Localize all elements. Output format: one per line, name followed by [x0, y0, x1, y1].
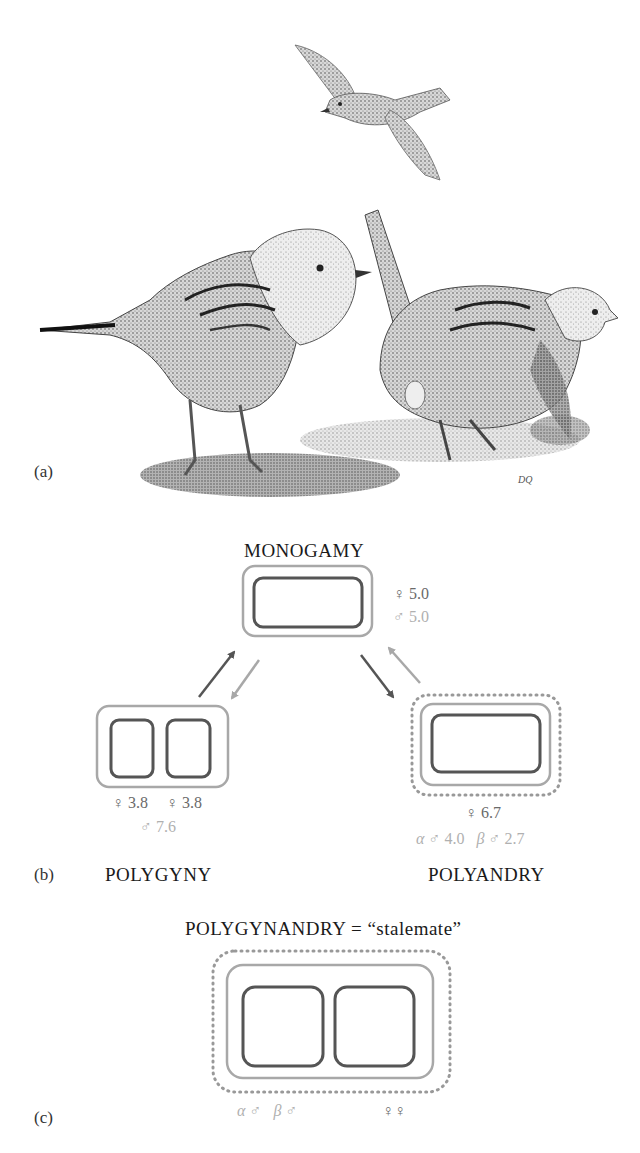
- female-territory-1: [111, 720, 153, 777]
- arrow-monogamy-to-polyandry: [361, 655, 393, 697]
- monogamy-female-share: ♀ 5.0: [393, 585, 429, 603]
- polygyny-female-1-share: ♀ 3.8: [112, 794, 148, 812]
- polyandry-territories: [412, 695, 560, 795]
- alpha-male-share: ♂ 4.0: [428, 830, 464, 847]
- female-territory: [432, 715, 540, 772]
- polygyny-female-2-share: ♀ 3.8: [166, 794, 202, 812]
- beta-male-share: ♂ 2.7: [488, 830, 524, 847]
- polygynandry-males: α ♂ β ♂: [237, 1102, 297, 1120]
- beta-male-territory: [412, 695, 560, 795]
- polygyny-male-share: ♂ 7.6: [140, 818, 176, 836]
- alpha-symbol: α: [237, 1102, 245, 1119]
- panel-label-c: (c): [34, 1108, 53, 1128]
- polygyny-territories: [97, 706, 228, 787]
- mating-system-diagram: [0, 0, 640, 1153]
- polygynandry-territories: [213, 951, 450, 1092]
- arrow-monogamy-to-polygyny: [232, 660, 259, 698]
- panel-label-b: (b): [34, 865, 54, 885]
- monogamy-territories: [243, 566, 372, 636]
- female-territory-2: [167, 720, 210, 777]
- arrow-polygyny-to-monogamy: [199, 652, 234, 697]
- polyandry-male-shares: α ♂ 4.0 β ♂ 2.7: [416, 830, 524, 848]
- alpha-male: ♂: [249, 1102, 261, 1119]
- alpha-symbol: α: [416, 830, 424, 847]
- polygynandry-females: ♀♀: [382, 1102, 406, 1120]
- beta-symbol: β: [273, 1102, 281, 1119]
- female-territory-2: [335, 987, 414, 1066]
- monogamy-male-share: ♂ 5.0: [393, 608, 429, 626]
- female-territory-1: [243, 987, 323, 1066]
- arrow-polyandry-to-monogamy: [389, 648, 420, 683]
- polygyny-title: POLYGYNY: [105, 864, 212, 886]
- transition-arrows: [199, 648, 420, 698]
- female-territory: [254, 578, 362, 627]
- polyandry-female-share: ♀ 6.7: [465, 804, 501, 822]
- alpha-male-territory: [227, 965, 433, 1078]
- beta-symbol: β: [476, 830, 484, 847]
- beta-male: ♂: [285, 1102, 297, 1119]
- polygynandry-title: POLYGYNANDRY = “stalemate”: [185, 918, 462, 940]
- monogamy-title: MONOGAMY: [244, 540, 364, 562]
- polyandry-title: POLYANDRY: [428, 864, 545, 886]
